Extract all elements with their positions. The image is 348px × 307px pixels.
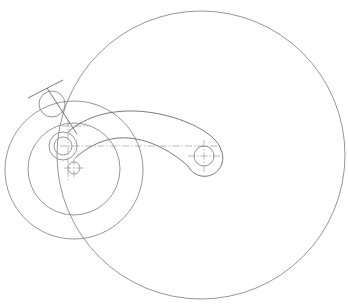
large-circle <box>57 11 345 299</box>
arm-profile <box>68 111 223 176</box>
tangent-line <box>28 80 63 98</box>
circles-group <box>5 11 345 299</box>
lines-group <box>28 80 77 134</box>
mechanism-drawing <box>0 0 348 307</box>
outer-concentric-circle <box>5 101 143 239</box>
link-line <box>47 88 77 134</box>
